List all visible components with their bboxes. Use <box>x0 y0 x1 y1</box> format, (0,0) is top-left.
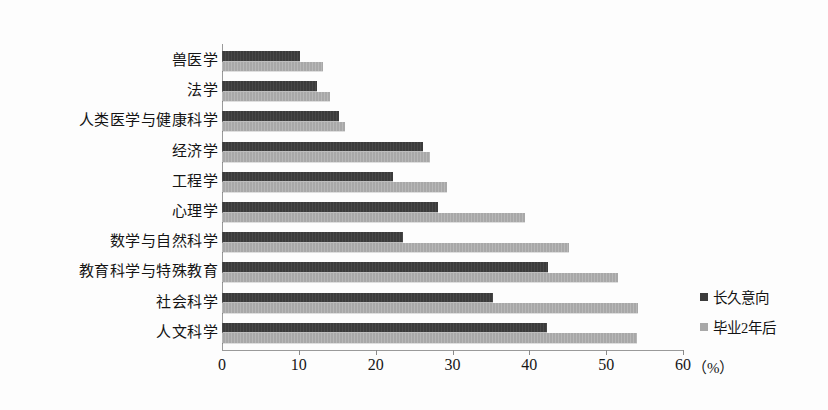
legend-item: 毕业2年后 <box>700 316 824 337</box>
bar-group <box>222 288 683 318</box>
category-label: 法学 <box>8 83 218 98</box>
x-axis-tick <box>376 350 377 355</box>
bar-chart: 兽医学法学人类医学与健康科学经济学工程学心理学数学与自然科学教育科学与特殊教育社… <box>0 0 828 410</box>
legend-label: 长久意向 <box>713 286 769 307</box>
category-label: 数学与自然科学 <box>8 234 218 249</box>
bar-series-two-years-after-graduation <box>222 273 618 283</box>
bar-series-long-term-intent <box>222 323 547 333</box>
x-axis-tick <box>299 350 300 355</box>
bar-group <box>222 76 683 106</box>
bar-series-two-years-after-graduation <box>222 92 330 102</box>
x-axis-tick-label: 30 <box>433 356 473 374</box>
x-axis-tick-label: 10 <box>279 356 319 374</box>
bar-series-two-years-after-graduation <box>222 62 323 72</box>
bar-series-long-term-intent <box>222 172 393 182</box>
bar-group <box>222 257 683 287</box>
bar-series-long-term-intent <box>222 81 317 91</box>
bar-series-two-years-after-graduation <box>222 152 430 162</box>
bar-series-long-term-intent <box>222 51 300 61</box>
bar-series-two-years-after-graduation <box>222 243 569 253</box>
bar-group <box>222 137 683 167</box>
category-label: 心理学 <box>8 204 218 219</box>
bar-series-two-years-after-graduation <box>222 122 345 132</box>
bar-series-long-term-intent <box>222 111 339 121</box>
legend-label: 毕业2年后 <box>713 316 776 337</box>
bar-series-two-years-after-graduation <box>222 333 637 343</box>
category-label: 教育科学与特殊教育 <box>8 264 218 279</box>
x-axis-tick <box>453 350 454 355</box>
legend-swatch-icon <box>700 293 708 301</box>
bar-series-two-years-after-graduation <box>222 182 447 192</box>
bar-series-long-term-intent <box>222 262 548 272</box>
bar-series-long-term-intent <box>222 142 423 152</box>
category-label: 人类医学与健康科学 <box>8 113 218 128</box>
bar-series-two-years-after-graduation <box>222 303 638 313</box>
bar-series-long-term-intent <box>222 202 438 212</box>
bar-series-long-term-intent <box>222 232 403 242</box>
x-axis-tick <box>529 350 530 355</box>
bar-series-two-years-after-graduation <box>222 213 525 223</box>
bar-group <box>222 46 683 76</box>
x-axis-tick-label: 20 <box>356 356 396 374</box>
x-axis-tick-label: 0 <box>202 356 242 374</box>
bar-group <box>222 167 683 197</box>
category-label: 经济学 <box>8 144 218 159</box>
category-label: 社会科学 <box>8 295 218 310</box>
x-axis-unit-label: （%） <box>692 356 735 377</box>
bar-series-long-term-intent <box>222 293 493 303</box>
bar-group <box>222 227 683 257</box>
x-axis-tick <box>683 350 684 355</box>
legend-swatch-icon <box>700 323 708 331</box>
bar-group <box>222 318 683 348</box>
x-axis-tick-label: 40 <box>509 356 549 374</box>
bar-group <box>222 197 683 227</box>
category-label: 兽医学 <box>8 53 218 68</box>
legend-item: 长久意向 <box>700 286 824 307</box>
category-label: 工程学 <box>8 174 218 189</box>
x-axis-tick-label: 50 <box>586 356 626 374</box>
bar-group <box>222 106 683 136</box>
legend: 长久意向毕业2年后 <box>700 286 824 346</box>
category-label-group: 兽医学法学人类医学与健康科学经济学工程学心理学数学与自然科学教育科学与特殊教育社… <box>4 46 218 348</box>
x-axis-tick <box>606 350 607 355</box>
category-label: 人文科学 <box>8 325 218 340</box>
plot-area <box>222 46 683 348</box>
